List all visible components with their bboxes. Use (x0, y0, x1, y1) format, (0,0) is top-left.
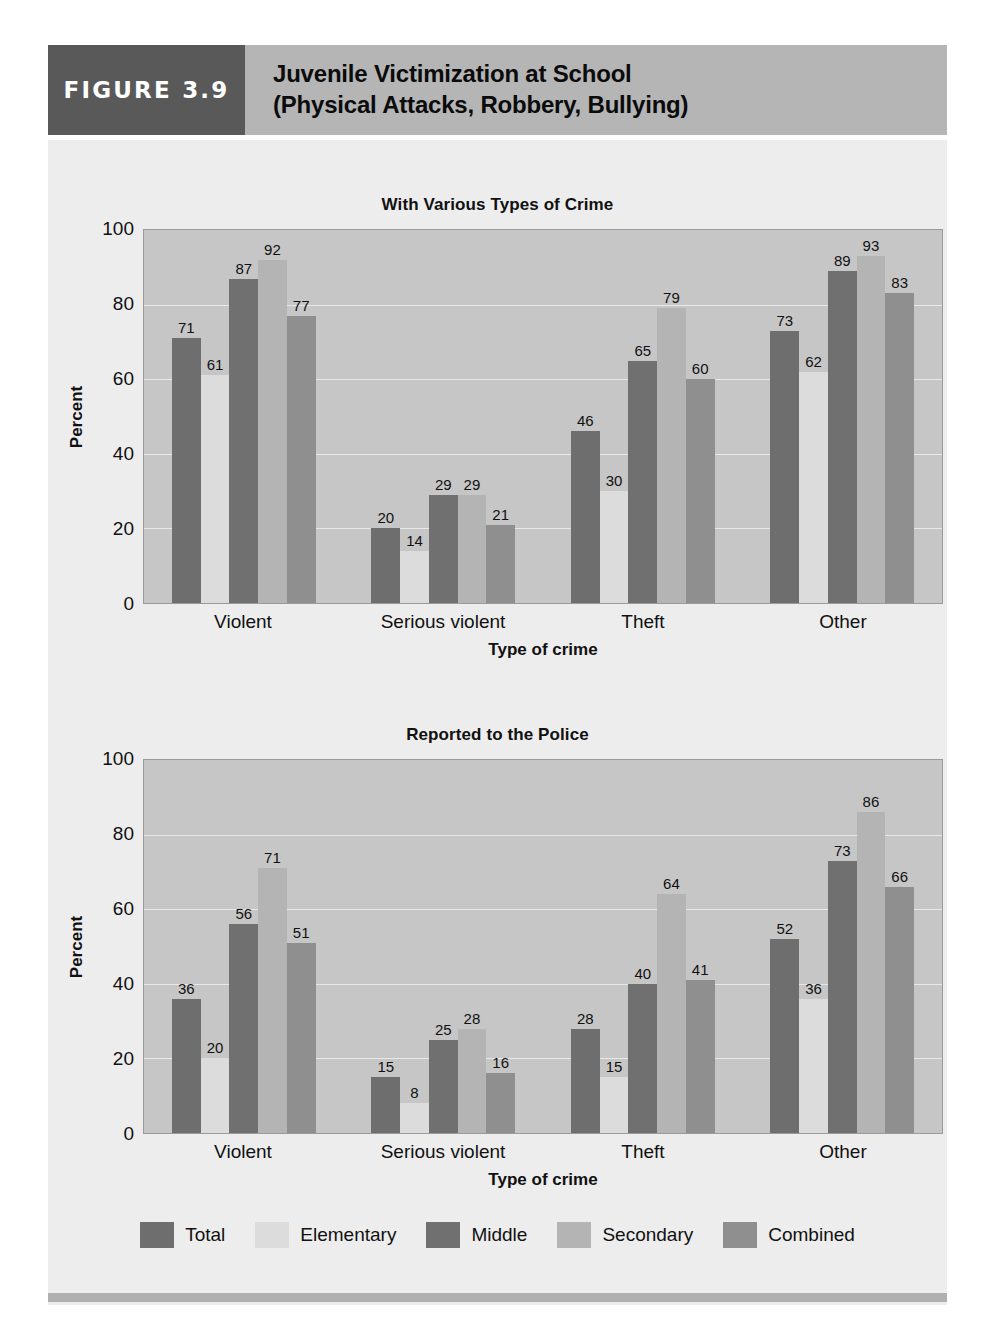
legend-label: Middle (471, 1224, 527, 1246)
bar-column: 25 (429, 760, 458, 1133)
figure-number-label: FIGURE 3.9 (64, 77, 230, 103)
bar-value-label: 20 (377, 509, 394, 526)
x-axis-title: Type of crime (143, 640, 943, 660)
bar (458, 1029, 487, 1133)
y-axis-label: Percent (67, 915, 87, 977)
bar-column: 36 (172, 760, 201, 1133)
legend-swatch (426, 1222, 460, 1248)
legend-label: Total (185, 1224, 225, 1246)
legend-item: Total (140, 1222, 225, 1248)
bar-column: 29 (429, 230, 458, 603)
figure-title-banner: Juvenile Victimization at School (Physic… (245, 45, 947, 135)
bar (201, 1058, 230, 1133)
bar-value-label: 62 (805, 353, 822, 370)
bar (172, 999, 201, 1133)
figure-header: FIGURE 3.9 Juvenile Victimization at Sch… (48, 45, 947, 135)
bar-value-label: 41 (692, 961, 709, 978)
bar (770, 331, 799, 603)
bar (828, 861, 857, 1133)
bar-value-label: 92 (264, 241, 281, 258)
bar-group: 2014292921 (344, 230, 544, 603)
bar-column: 77 (287, 230, 316, 603)
bar-column: 14 (400, 230, 429, 603)
bar-value-label: 52 (776, 920, 793, 937)
bar (885, 293, 914, 603)
y-tick-label: 0 (123, 593, 134, 615)
bar-column: 71 (172, 230, 201, 603)
bar-column: 28 (458, 760, 487, 1133)
bar-value-label: 36 (178, 980, 195, 997)
bar (258, 260, 287, 603)
figure-panel: With Various Types of CrimePercent020406… (48, 140, 947, 1305)
bar-set: 7362899383 (770, 230, 914, 603)
bar (287, 943, 316, 1133)
bar-column: 56 (229, 760, 258, 1133)
divider-bottom (48, 1293, 947, 1302)
y-tick-label: 100 (102, 218, 134, 240)
chart-title: With Various Types of Crime (48, 195, 947, 221)
legend-swatch (723, 1222, 757, 1248)
x-tick-label: Theft (543, 604, 743, 638)
bar-set: 3620567151 (172, 760, 316, 1133)
figure-number-badge: FIGURE 3.9 (48, 45, 245, 135)
chart-plot-body: Percent020406080100716187927720142929214… (48, 229, 947, 604)
bar (628, 361, 657, 603)
bar-value-label: 29 (435, 476, 452, 493)
bar-value-label: 56 (235, 905, 252, 922)
bar-column: 83 (885, 230, 914, 603)
bar-value-label: 14 (406, 532, 423, 549)
bar (229, 924, 258, 1133)
bar-set: 2014292921 (371, 230, 515, 603)
bar (857, 812, 886, 1133)
bar-column: 93 (857, 230, 886, 603)
bar-value-label: 51 (293, 924, 310, 941)
bar (172, 338, 201, 603)
legend-item: Secondary (557, 1222, 693, 1248)
bar-value-label: 73 (776, 312, 793, 329)
y-axis-ticks: 020406080100 (88, 759, 140, 1134)
bar-column: 87 (229, 230, 258, 603)
bar-column: 16 (486, 760, 515, 1133)
bar-column: 21 (486, 230, 515, 603)
bar-set: 5236738666 (770, 760, 914, 1133)
bar (828, 271, 857, 603)
y-tick-label: 40 (113, 973, 134, 995)
bar-column: 73 (770, 230, 799, 603)
bar-column: 30 (600, 230, 629, 603)
plot-area: 362056715115825281628154064415236738666 (143, 759, 943, 1134)
bar-group: 7362899383 (743, 230, 943, 603)
bar (657, 308, 686, 603)
bar-value-label: 36 (805, 980, 822, 997)
bar-value-label: 64 (663, 875, 680, 892)
bar-column: 40 (628, 760, 657, 1133)
y-tick-label: 0 (123, 1123, 134, 1145)
bar-group: 5236738666 (743, 760, 943, 1133)
chart-1: With Various Types of CrimePercent020406… (48, 195, 947, 660)
bar (400, 1103, 429, 1133)
bar-value-label: 86 (863, 793, 880, 810)
x-tick-label: Other (743, 1134, 943, 1168)
bar-column: 51 (287, 760, 316, 1133)
x-axis-title: Type of crime (143, 1170, 943, 1190)
bar-value-label: 25 (435, 1021, 452, 1038)
bar-column: 60 (686, 230, 715, 603)
bar-value-label: 61 (207, 356, 224, 373)
bar-groups: 362056715115825281628154064415236738666 (144, 760, 942, 1133)
bar-value-label: 8 (410, 1084, 418, 1101)
y-tick-label: 60 (113, 898, 134, 920)
bar-value-label: 21 (492, 506, 509, 523)
y-tick-label: 100 (102, 748, 134, 770)
legend-swatch (140, 1222, 174, 1248)
bar (371, 1077, 400, 1133)
legend-swatch (557, 1222, 591, 1248)
bar-value-label: 83 (891, 274, 908, 291)
bar-column: 20 (371, 230, 400, 603)
x-axis-labels: ViolentSerious violentTheftOther (143, 604, 943, 638)
x-tick-label: Violent (143, 604, 343, 638)
bar-value-label: 28 (464, 1010, 481, 1027)
bar (686, 980, 715, 1133)
bar-value-label: 20 (207, 1039, 224, 1056)
bar (400, 551, 429, 603)
bar-value-label: 16 (492, 1054, 509, 1071)
bar (857, 256, 886, 603)
